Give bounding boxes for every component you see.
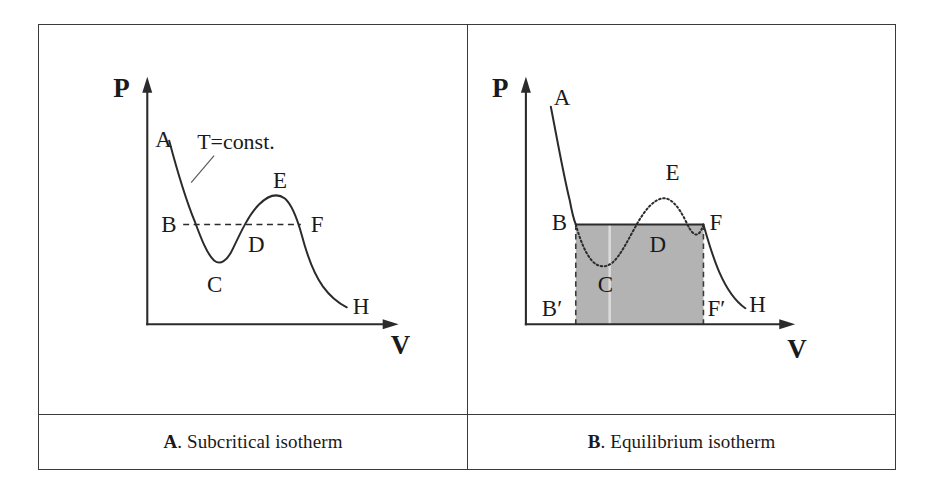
panel-a-label-F: F bbox=[311, 212, 324, 237]
panel-a-annotation-leader bbox=[191, 156, 214, 183]
panel-b-plot-cell: P V A B C D E F H B′ F′ bbox=[467, 25, 895, 414]
panel-b-label-F: F bbox=[709, 210, 722, 235]
panel-a-temperature-annotation: T=const. bbox=[197, 129, 275, 154]
panel-a-plot-cell: P V A B C D E F H T=const. bbox=[39, 25, 467, 414]
panel-a-x-axis-arrow bbox=[383, 319, 399, 329]
panel-b-x-axis-arrow bbox=[779, 319, 795, 329]
plots-row: P V A B C D E F H T=const. bbox=[39, 25, 895, 414]
panel-a-y-axis-arrow bbox=[142, 77, 152, 93]
panel-b-label-D: D bbox=[650, 232, 667, 257]
panel-a-caption-letter: A bbox=[163, 431, 177, 453]
panel-b-label-F-prime: F′ bbox=[707, 296, 725, 321]
figure-table: P V A B C D E F H T=const. bbox=[38, 24, 896, 470]
panel-a-label-C: C bbox=[207, 272, 222, 297]
panel-b-label-B: B bbox=[552, 210, 567, 235]
panel-b-chart: P V A B C D E F H B′ F′ bbox=[468, 25, 895, 414]
panel-b-x-axis-label: V bbox=[787, 334, 807, 364]
panel-a-label-H: H bbox=[353, 294, 370, 319]
panel-b-y-axis-arrow bbox=[521, 77, 531, 93]
panel-b-two-phase-shaded-region bbox=[576, 224, 704, 324]
panel-a-y-axis-label: P bbox=[113, 73, 129, 103]
panel-a-label-A: A bbox=[155, 127, 172, 152]
panel-b-label-E: E bbox=[666, 160, 680, 185]
panel-a-chart: P V A B C D E F H T=const. bbox=[39, 25, 467, 414]
panel-b-y-axis-label: P bbox=[492, 73, 508, 103]
panel-a-caption-text: . Subcritical isotherm bbox=[177, 431, 342, 453]
panel-b-label-C: C bbox=[598, 272, 613, 297]
captions-row: A. Subcritical isotherm B. Equilibrium i… bbox=[39, 414, 895, 469]
panel-b-label-H: H bbox=[749, 292, 766, 317]
panel-b-caption-text: . Equilibrium isotherm bbox=[601, 431, 776, 453]
panel-b-label-A: A bbox=[554, 85, 571, 110]
panel-b-caption: B. Equilibrium isotherm bbox=[467, 415, 895, 469]
panel-a-caption: A. Subcritical isotherm bbox=[39, 415, 467, 469]
panel-b-label-B-prime: B′ bbox=[542, 296, 562, 321]
panel-a-label-B: B bbox=[161, 212, 176, 237]
panel-a-label-D: D bbox=[248, 232, 265, 257]
panel-b-caption-letter: B bbox=[588, 431, 601, 453]
panel-a-x-axis-label: V bbox=[391, 330, 411, 360]
panel-a-label-E: E bbox=[273, 168, 287, 193]
panel-b-liquid-branch bbox=[551, 107, 576, 225]
